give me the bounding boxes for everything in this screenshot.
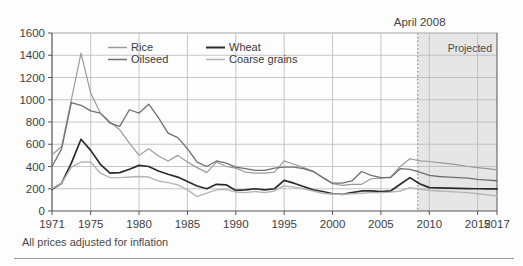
- x-tick-label: 1990: [223, 218, 249, 230]
- y-tick-label: 800: [26, 116, 45, 128]
- y-tick-label: 1200: [19, 72, 45, 84]
- x-tick-label: 2017: [484, 218, 510, 230]
- x-tick-label: 1971: [39, 218, 65, 230]
- projected-label: Projected: [448, 42, 493, 54]
- x-tick-label: 2000: [320, 218, 346, 230]
- y-tick-label: 200: [26, 183, 45, 195]
- x-tick-label: 2010: [416, 218, 442, 230]
- legend-label-rice: Rice: [131, 41, 153, 53]
- x-tick-label: 1985: [175, 218, 201, 230]
- legend-label-oilseed: Oilseed: [131, 53, 168, 65]
- april-2008-annotation-label: April 2008: [394, 16, 446, 28]
- legend-label-wheat: Wheat: [229, 41, 261, 53]
- x-tick-label: 1980: [126, 218, 152, 230]
- y-tick-label: 1400: [19, 49, 45, 61]
- y-tick-label: 1600: [19, 27, 45, 39]
- x-tick-label: 1995: [271, 218, 297, 230]
- y-tick-label: 400: [26, 161, 45, 173]
- y-tick-label: 600: [26, 138, 45, 150]
- chart-caption: All prices adjusted for inflation: [22, 236, 168, 248]
- y-tick-label: 0: [39, 205, 45, 217]
- x-tick-label: 1975: [78, 218, 104, 230]
- y-tick-label: 1000: [19, 94, 45, 106]
- legend-label-coarse-grains: Coarse grains: [229, 53, 298, 65]
- chart-figure: 0200400600800100012001400160019711975198…: [0, 0, 523, 266]
- x-tick-label: 2005: [368, 218, 394, 230]
- price-trends-line-chart: 0200400600800100012001400160019711975198…: [0, 0, 523, 266]
